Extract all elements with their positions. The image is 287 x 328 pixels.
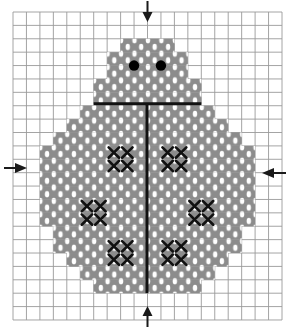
body-stitch-row (107, 66, 188, 79)
bottom-center-arrow-icon (143, 306, 153, 327)
body-stitch-row (94, 79, 202, 92)
eye-dot (156, 60, 166, 70)
body-stitch-row (107, 52, 188, 65)
cross-stitch-chart (0, 0, 287, 328)
eye-dot (129, 60, 139, 70)
top-center-arrow-icon (143, 1, 153, 22)
body-stitch-row (121, 39, 175, 52)
left-center-arrow-icon (4, 163, 27, 173)
